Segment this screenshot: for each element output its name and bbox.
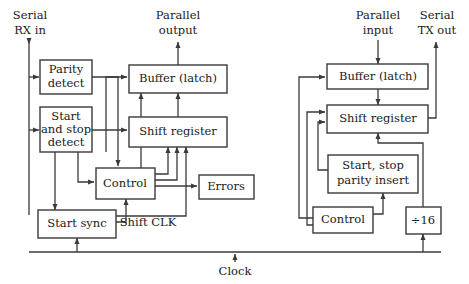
block-rx-buffer-latch[interactable]: Buffer (latch)	[129, 65, 227, 93]
block-divide-by-16[interactable]: ÷16	[406, 207, 441, 234]
parallel-output-label-line1: Parallel	[156, 8, 201, 22]
parity-insert-label-line1: Start, stop	[342, 158, 404, 172]
serial-rx-in-label-line1: Serial	[13, 8, 48, 22]
wire-serial-rx-in	[29, 40, 39, 215]
serial-tx-out-label-line2: TX out	[418, 23, 457, 37]
block-tx-control[interactable]: Control	[313, 207, 373, 233]
wire-rail-to-buffer-latch	[106, 77, 127, 152]
wire-control-to-shiftreg	[155, 147, 177, 180]
serial-rx-in-label-line2: RX in	[14, 23, 46, 37]
start-stop-detect-label-line3: detect	[48, 135, 85, 149]
block-start-sync[interactable]: Start sync	[38, 210, 116, 238]
rx-shift-register-label: Shift register	[139, 124, 217, 138]
uart-block-diagram: Parity detect Start and stop detect Buff…	[0, 0, 469, 284]
wire-parity-to-control	[92, 77, 118, 166]
divide-by-16-label: ÷16	[411, 213, 435, 227]
tx-control-label: Control	[321, 212, 365, 226]
block-start-and-stop-detect[interactable]: Start and stop detect	[40, 107, 92, 152]
block-start-stop-parity-insert[interactable]: Start, stop parity insert	[328, 155, 418, 193]
rx-buffer-latch-label: Buffer (latch)	[139, 71, 217, 85]
rx-control-label: Control	[103, 176, 147, 190]
clock-bus	[29, 252, 441, 262]
parallel-input-label-line2: input	[363, 23, 394, 37]
wire-tx-control-to-buffer	[299, 77, 325, 218]
clock-label: Clock	[219, 264, 253, 278]
wire-tx-shiftreg-to-serial-out	[428, 42, 436, 118]
wire-startstop-to-control	[78, 152, 94, 182]
block-errors[interactable]: Errors	[199, 175, 254, 199]
block-rx-control[interactable]: Control	[96, 168, 155, 199]
parity-detect-label-line1: Parity	[49, 62, 84, 76]
wire-tx-control-to-parity-insert	[373, 193, 383, 214]
tx-buffer-latch-label: Buffer (latch)	[339, 69, 417, 83]
block-rx-shift-register[interactable]: Shift register	[129, 117, 227, 147]
serial-tx-out-label-line1: Serial	[420, 8, 455, 22]
errors-label: Errors	[207, 179, 245, 193]
start-stop-detect-label-line1: Start	[51, 109, 81, 123]
block-parity-detect[interactable]: Parity detect	[40, 60, 92, 94]
start-stop-detect-label-line2: and stop	[41, 122, 91, 136]
shift-clk-label: Shift CLK	[120, 215, 177, 229]
parity-insert-label-line2: parity insert	[337, 173, 409, 187]
tx-shift-register-label: Shift register	[339, 111, 417, 125]
parallel-output-label-line2: output	[159, 23, 198, 37]
parallel-input-label-line1: Parallel	[356, 8, 401, 22]
block-tx-buffer-latch[interactable]: Buffer (latch)	[327, 64, 428, 89]
parity-detect-label-line2: detect	[48, 76, 85, 90]
start-sync-label: Start sync	[47, 216, 106, 230]
block-tx-shift-register[interactable]: Shift register	[327, 105, 428, 133]
